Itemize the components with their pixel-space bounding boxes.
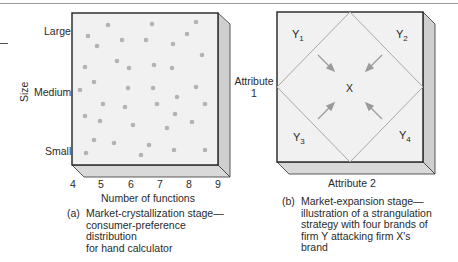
x-tick-6: 6 (128, 178, 134, 190)
caption-a-line-1: Market-crystallization stage— (86, 208, 237, 220)
label-y1: Y1 (292, 28, 304, 45)
y-tick-small: Small (45, 145, 71, 157)
x-tick-9: 9 (215, 178, 221, 190)
x-axis-title-functions: Number of functions (101, 192, 195, 204)
caption-a-label: (a) (67, 208, 80, 220)
caption-b-line-3: strategy with four brands of (301, 219, 458, 231)
x-tick-8: 8 (186, 178, 192, 190)
caption-a-line-3: for hand calculator (86, 243, 237, 255)
label-y2: Y2 (396, 28, 408, 45)
y-axis-title-size: Size (18, 82, 30, 102)
label-x-center: X (346, 82, 353, 94)
caption-b-label: (b) (282, 196, 295, 208)
y-tick-large: Large (44, 25, 71, 37)
y-axis-title-attribute-1: Attribute 1 (232, 75, 276, 99)
label-y3: Y3 (293, 131, 305, 148)
x-tick-7: 7 (157, 178, 163, 190)
caption-b-line-5: brand (301, 242, 458, 254)
caption-a: (a) Market-crystallization stage— consum… (67, 208, 237, 254)
x-tick-5: 5 (98, 178, 104, 190)
y-tick-medium: Medium (34, 86, 71, 98)
x-axis-title-attribute-2: Attribute 2 (328, 177, 376, 189)
label-y4: Y4 (399, 129, 411, 146)
caption-a-line-2: consumer-preference distribution (86, 220, 237, 243)
panel-a-box (72, 13, 230, 177)
caption-b: (b) Market-expansion stage— illustration… (282, 196, 458, 254)
caption-b-line-1: Market-expansion stage— (301, 196, 458, 208)
x-tick-4: 4 (70, 178, 76, 190)
